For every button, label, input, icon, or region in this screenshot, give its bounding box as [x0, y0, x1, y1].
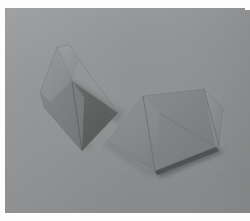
photo-border-top — [0, 0, 250, 8]
photo-frame: Two folded gray paper/cardboard geometri… — [0, 0, 250, 221]
photo-border-right-corner — [245, 0, 250, 10]
photo-border-left — [0, 0, 5, 221]
photo-border-bottom — [0, 213, 250, 221]
photograph — [0, 0, 250, 221]
